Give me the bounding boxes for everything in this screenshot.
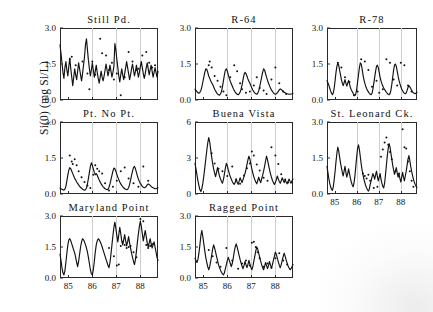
- series-plot: [195, 122, 293, 194]
- observation-point: [239, 183, 241, 185]
- y-tick-label: 3: [187, 153, 192, 163]
- observation-point: [344, 76, 346, 78]
- x-tick-label: 88: [271, 281, 280, 291]
- observation-point: [263, 177, 265, 179]
- plot-panel-4: Pt. No Pt.0.01.53.0: [60, 122, 158, 194]
- observation-point: [212, 255, 214, 257]
- observation-point: [253, 155, 255, 157]
- observation-point: [211, 152, 213, 154]
- observation-point: [270, 146, 272, 148]
- observation-point: [225, 94, 227, 96]
- observation-point: [384, 141, 386, 143]
- observation-point: [256, 76, 258, 78]
- observation-point: [132, 61, 134, 63]
- observation-point: [122, 241, 124, 243]
- observation-point: [208, 249, 210, 251]
- observation-point: [251, 150, 253, 152]
- observation-point: [113, 255, 115, 257]
- observation-point: [120, 94, 122, 96]
- plot-panel-1: Still Pd.0.01.53.0: [60, 28, 158, 100]
- observation-point: [267, 263, 269, 265]
- observation-point: [253, 85, 255, 87]
- observation-point: [101, 173, 103, 175]
- plot-panel-7: Maryland Point0.01.53.085868788: [60, 216, 158, 278]
- observation-point: [249, 265, 251, 267]
- observation-point: [278, 82, 280, 84]
- observation-point: [120, 170, 122, 172]
- y-tick-label: 0.0: [180, 273, 191, 283]
- observation-point: [393, 79, 395, 81]
- observation-point: [389, 62, 391, 64]
- y-tick-label: 3.0: [312, 23, 323, 33]
- observation-point: [108, 69, 110, 71]
- observation-point: [357, 91, 359, 93]
- observation-point: [118, 264, 120, 266]
- observation-point: [270, 267, 272, 269]
- y-tick-label: 3.0: [312, 117, 323, 127]
- observation-point: [139, 218, 141, 220]
- observation-point: [360, 58, 362, 60]
- observation-point: [403, 146, 405, 148]
- y-tick-label: 1.5: [180, 59, 191, 69]
- observation-point: [130, 245, 132, 247]
- observation-point: [221, 170, 223, 172]
- observation-point: [211, 67, 213, 69]
- panel-title: Maryland Point: [60, 202, 158, 213]
- observation-point: [101, 52, 103, 54]
- observation-point: [257, 251, 259, 253]
- observation-point: [135, 256, 137, 258]
- y-tick-label: 0.0: [45, 95, 56, 105]
- observation-point: [112, 186, 114, 188]
- y-tick-label: 1.5: [45, 59, 56, 69]
- x-tick-label: 86: [223, 281, 232, 291]
- observation-point: [353, 94, 355, 96]
- series-plot: [195, 28, 293, 100]
- observation-point: [389, 151, 391, 153]
- observation-point: [407, 161, 409, 163]
- x-tick-label: 87: [112, 281, 121, 291]
- observation-point: [81, 176, 83, 178]
- observation-point: [128, 51, 130, 53]
- observation-point: [120, 245, 122, 247]
- observation-point: [270, 79, 272, 81]
- x-tick-label: 87: [247, 281, 256, 291]
- observation-point: [382, 88, 384, 90]
- x-tick-label: 87: [374, 197, 383, 207]
- observation-point: [263, 266, 265, 268]
- observation-point: [145, 244, 147, 246]
- observation-point: [253, 241, 255, 243]
- observation-point: [255, 246, 257, 248]
- observation-point: [241, 88, 243, 90]
- observation-point: [411, 91, 413, 93]
- observation-point: [86, 185, 88, 187]
- observation-point: [69, 58, 71, 60]
- observation-point: [104, 182, 106, 184]
- y-tick-label: 1.5: [45, 242, 56, 252]
- panel-title: Pt. No Pt.: [60, 108, 158, 119]
- observation-point: [82, 61, 84, 63]
- observation-point: [376, 186, 378, 188]
- observation-point: [382, 149, 384, 151]
- observation-point: [71, 161, 73, 163]
- observation-point: [285, 93, 287, 95]
- observation-point: [286, 264, 288, 266]
- observation-point: [137, 186, 139, 188]
- observation-point: [233, 64, 235, 66]
- observation-point: [75, 64, 77, 66]
- observation-point: [364, 61, 366, 63]
- observation-point: [154, 64, 156, 66]
- observation-point: [287, 182, 289, 184]
- observation-point: [133, 251, 135, 253]
- observation-point: [349, 81, 351, 83]
- observation-point: [89, 187, 91, 189]
- observation-point: [219, 86, 221, 88]
- observation-point: [71, 56, 73, 58]
- observation-point: [208, 64, 210, 66]
- observation-point: [263, 89, 265, 91]
- observation-point: [367, 69, 369, 71]
- observation-point: [385, 137, 387, 139]
- y-tick-label: 3.0: [180, 211, 191, 221]
- observation-point: [218, 168, 220, 170]
- scan-artifact: [313, 217, 433, 312]
- y-tick-label: 0.0: [180, 95, 191, 105]
